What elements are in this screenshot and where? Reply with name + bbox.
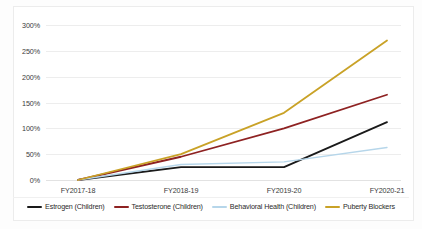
x-axis-tick-label: FY2017-18 xyxy=(61,186,96,195)
chart-card: 0%50%100%150%200%250%300% FY2017-18FY201… xyxy=(0,0,422,229)
legend-item[interactable]: Testosterone (Children) xyxy=(114,202,203,211)
x-axis-labels: FY2017-18FY2018-19FY2019-20FY2020-21 xyxy=(46,184,401,198)
y-axis-tick-label: 50% xyxy=(0,150,40,159)
x-axis-tick-label: FY2020-21 xyxy=(370,186,405,195)
legend-label: Estrogen (Children) xyxy=(45,202,104,211)
legend-swatch-icon xyxy=(212,206,227,208)
chart-legend: Estrogen (Children)Testosterone (Childre… xyxy=(13,202,409,211)
y-axis-tick-label: 200% xyxy=(0,72,40,81)
legend-label: Puberty Blockers xyxy=(343,202,395,211)
legend-swatch-icon xyxy=(325,206,340,208)
series-line xyxy=(78,147,387,180)
legend-item[interactable]: Estrogen (Children) xyxy=(27,202,104,211)
series-line xyxy=(78,122,387,180)
y-axis-tick-label: 150% xyxy=(0,98,40,107)
legend-swatch-icon xyxy=(114,206,129,208)
legend-item[interactable]: Puberty Blockers xyxy=(325,202,395,211)
x-axis-tick-label: FY2018-19 xyxy=(164,186,199,195)
axis-baseline xyxy=(46,180,401,181)
y-axis-tick-label: 250% xyxy=(0,46,40,55)
series-lines xyxy=(46,25,401,180)
x-axis-tick-label: FY2019-20 xyxy=(267,186,302,195)
legend-label: Testosterone (Children) xyxy=(132,202,203,211)
legend-swatch-icon xyxy=(27,206,42,208)
legend-divider xyxy=(13,197,409,198)
y-axis-tick-label: 300% xyxy=(0,21,40,30)
legend-item[interactable]: Behavioral Health (Children) xyxy=(212,202,316,211)
y-axis-labels: 0%50%100%150%200%250%300% xyxy=(0,0,44,229)
legend-label: Behavioral Health (Children) xyxy=(230,202,316,211)
y-axis-tick-label: 0% xyxy=(0,176,40,185)
y-axis-tick-label: 100% xyxy=(0,124,40,133)
